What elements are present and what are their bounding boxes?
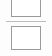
bottom-placeholder-frame[interactable] <box>11 26 41 50</box>
section-divider <box>6 21 46 22</box>
placeholder-frame-stack <box>0 0 52 56</box>
top-placeholder-frame[interactable] <box>11 0 41 17</box>
